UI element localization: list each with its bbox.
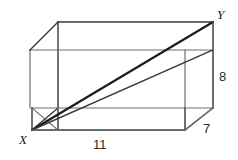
bottom-face-edges [32, 108, 213, 130]
prism-figure: X Y 11 7 8 [0, 0, 238, 160]
depth-edges [30, 22, 185, 130]
dimension-label-length: 11 [93, 138, 107, 151]
space-diagonal-xy [32, 22, 213, 130]
dimension-label-height: 8 [219, 70, 226, 83]
vertex-label-x: X [19, 133, 27, 146]
front-face-edges [58, 22, 213, 130]
prism-drawing [0, 0, 238, 160]
top-left-depth-edge [30, 22, 58, 50]
dimension-label-depth: 7 [203, 122, 210, 135]
bottom-face-diagonal [32, 50, 213, 130]
vertex-label-y: Y [217, 8, 224, 21]
